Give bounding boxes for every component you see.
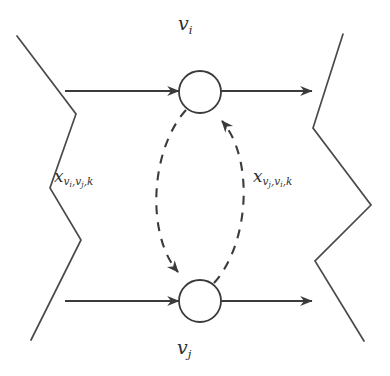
node-label-vi-sub: i	[189, 23, 193, 37]
edge-label-right-subscript: vj,vi,k	[263, 175, 293, 187]
dashed-arc-vj-to-vi	[214, 121, 244, 283]
node-label-vi-var: v	[178, 12, 189, 34]
edge-label-left-subscript: vi,vj,k	[64, 175, 94, 187]
edge-label-right-var: x	[253, 166, 263, 186]
node-label-vj: vj	[177, 338, 191, 357]
node-vj[interactable]	[179, 280, 221, 322]
network-node-pair-diagram	[0, 0, 390, 376]
edge-label-x-vj-vi-k: xvj,vi,k	[253, 168, 292, 185]
node-vi[interactable]	[179, 71, 221, 113]
boundary-zigzag-right	[313, 34, 371, 341]
node-label-vi: vi	[178, 14, 193, 33]
edge-label-right-sub-k: k	[286, 175, 292, 187]
edge-label-left-var: x	[54, 166, 64, 186]
node-label-vj-sub: j	[188, 347, 192, 361]
edge-label-x-vi-vj-k: xvi,vj,k	[54, 168, 93, 185]
node-label-vj-var: v	[177, 336, 188, 358]
dashed-arc-vi-to-vj	[156, 110, 186, 272]
edge-label-left-sub-k: k	[87, 175, 93, 187]
